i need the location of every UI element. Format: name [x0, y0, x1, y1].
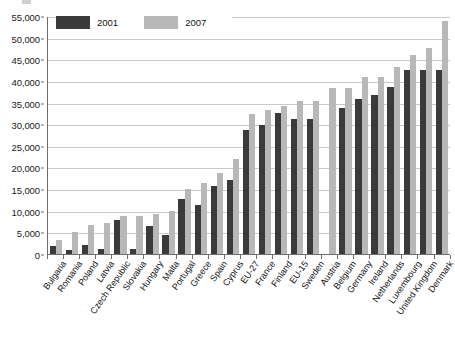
bar-chart: 05,00010,00015,00020,00025,00030,00035,0…: [0, 0, 455, 339]
y-axis-tick-label: 45,000: [12, 55, 40, 66]
bar-2007: [185, 189, 191, 254]
bar-group: [386, 17, 402, 254]
bar-2007: [329, 88, 335, 254]
bar-group: [321, 17, 337, 254]
y-axis-tick-label: 25,000: [12, 141, 40, 152]
legend-swatch-2001: [56, 16, 90, 29]
bar-2007: [313, 101, 319, 254]
bar-group: [402, 17, 418, 254]
bar-2007: [233, 159, 239, 254]
y-axis-tick-label: 40,000: [12, 76, 40, 87]
y-axis-tick-label: 55,000: [12, 12, 40, 23]
y-axis-tick-label: 0: [35, 250, 40, 261]
bar-2007: [88, 225, 94, 254]
y-axis-tick-label: 35,000: [12, 98, 40, 109]
y-axis-tick-mark: [41, 255, 44, 256]
bar-group: [48, 17, 64, 254]
bar-2007: [426, 48, 432, 254]
bar-2007: [394, 67, 400, 254]
y-axis-tick-label: 15,000: [12, 185, 40, 196]
bar-group: [305, 17, 321, 254]
bar-group: [209, 17, 225, 254]
chart-legend: 2001 2007: [56, 16, 232, 29]
y-axis-tick-label: 50,000: [12, 33, 40, 44]
y-axis-tick-mark: [41, 168, 44, 169]
bar-group: [434, 17, 450, 254]
y-axis-tick-mark: [41, 211, 44, 212]
y-axis-tick-mark: [41, 146, 44, 147]
bar-group: [128, 17, 144, 254]
y-axis-tick-label: 5,000: [17, 228, 40, 239]
bar-2007: [265, 110, 271, 254]
bar-series-container: [48, 17, 450, 254]
y-axis: 05,00010,00015,00020,00025,00030,00035,0…: [0, 17, 44, 255]
bar-group: [193, 17, 209, 254]
bar-2007: [169, 211, 175, 254]
y-axis-tick-mark: [41, 38, 44, 39]
bar-group: [289, 17, 305, 254]
legend-item-2001: 2001: [56, 16, 144, 29]
bar-group: [241, 17, 257, 254]
bar-2007: [345, 88, 351, 254]
bar-2007: [281, 106, 287, 254]
bar-2007: [201, 183, 207, 254]
y-axis-tick-mark: [41, 125, 44, 126]
bar-group: [225, 17, 241, 254]
legend-swatch-2007: [144, 16, 178, 29]
bar-group: [177, 17, 193, 254]
bar-2007: [72, 232, 78, 255]
bar-2007: [297, 101, 303, 254]
y-axis-tick-mark: [41, 233, 44, 234]
bar-2007: [249, 114, 255, 254]
plot-area: [47, 17, 450, 255]
y-axis-tick-mark: [41, 60, 44, 61]
bar-2007: [378, 77, 384, 254]
y-axis-tick-label: 10,000: [12, 206, 40, 217]
x-axis-labels: BulgariaRomaniaPolandLatviaCzech Republi…: [47, 259, 450, 339]
bar-group: [96, 17, 112, 254]
legend-item-2007: 2007: [144, 16, 232, 29]
bar-group: [64, 17, 80, 254]
y-axis-tick-mark: [41, 17, 44, 18]
y-axis-tick-label: 30,000: [12, 120, 40, 131]
bar-group: [112, 17, 128, 254]
bar-2007: [217, 173, 223, 254]
y-axis-tick-label: 20,000: [12, 163, 40, 174]
bar-group: [418, 17, 434, 254]
bar-2007: [120, 216, 126, 254]
bar-2007: [362, 77, 368, 254]
bar-group: [80, 17, 96, 254]
bar-group: [370, 17, 386, 254]
bar-group: [144, 17, 160, 254]
legend-label-2001: 2001: [97, 17, 118, 28]
bar-2007: [153, 214, 159, 254]
bar-group: [161, 17, 177, 254]
bar-2007: [442, 21, 448, 254]
y-axis-tick-mark: [41, 103, 44, 104]
bar-group: [257, 17, 273, 254]
bar-group: [353, 17, 369, 254]
bar-2007: [56, 240, 62, 254]
bar-2007: [104, 223, 110, 254]
y-axis-tick-mark: [41, 81, 44, 82]
bar-2007: [136, 216, 142, 255]
bar-2007: [410, 55, 416, 254]
legend-label-2007: 2007: [185, 17, 206, 28]
y-axis-tick-mark: [41, 190, 44, 191]
bar-group: [337, 17, 353, 254]
bar-group: [273, 17, 289, 254]
top-crop-artifact: [22, 0, 31, 4]
